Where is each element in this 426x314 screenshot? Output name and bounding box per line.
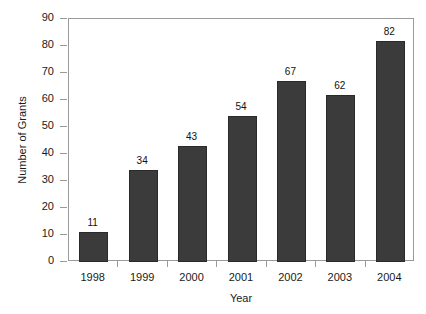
y-axis-tick-label: 30 [42, 172, 54, 187]
bar [79, 232, 108, 262]
bar [326, 95, 355, 262]
bar [129, 170, 158, 262]
y-axis-tick-mark [60, 261, 67, 262]
bar-value-label: 82 [359, 26, 419, 38]
y-axis-tick: 50 [0, 126, 68, 127]
y-axis-tick: 10 [0, 234, 68, 235]
y-axis-tick-mark [60, 207, 67, 208]
y-axis-tick-label: 80 [42, 37, 54, 52]
y-axis-tick: 80 [0, 45, 68, 46]
bar [178, 146, 207, 262]
x-axis-title: Year [68, 291, 414, 305]
x-axis-tick-mark [167, 261, 168, 267]
bar [376, 41, 405, 262]
y-axis-tick-mark [60, 72, 67, 73]
y-axis-tick-label: 0 [48, 253, 54, 268]
y-axis-tick-label: 50 [42, 118, 54, 133]
y-axis-tick: 70 [0, 72, 68, 73]
y-axis-tick: 90 [0, 18, 68, 19]
y-axis-title: Number of Grants [15, 18, 29, 262]
y-axis-tick-mark [60, 153, 67, 154]
bar [277, 81, 306, 262]
bar-value-label: 34 [112, 155, 172, 167]
bar [228, 116, 257, 262]
y-axis-tick: 40 [0, 153, 68, 154]
x-axis-tick-mark [266, 261, 267, 267]
y-axis-tick-mark [60, 180, 67, 181]
bar-value-label: 11 [63, 217, 123, 229]
y-axis-tick: 60 [0, 99, 68, 100]
bar-value-label: 67 [260, 66, 320, 78]
y-axis-tick-label: 70 [42, 64, 54, 79]
y-axis-tick-mark [60, 126, 67, 127]
y-axis-tick-mark [60, 234, 67, 235]
bar-value-label: 43 [162, 131, 222, 143]
y-axis-tick-label: 20 [42, 199, 54, 214]
y-axis-tick-mark [60, 99, 67, 100]
y-axis-tick: 0 [0, 261, 68, 262]
x-axis-tick-label: 2004 [359, 270, 419, 284]
y-axis-tick-label: 90 [42, 10, 54, 25]
x-axis-tick-mark [365, 261, 366, 267]
y-axis-tick-label: 60 [42, 91, 54, 106]
x-axis-tick-mark [117, 261, 118, 267]
y-axis-tick: 20 [0, 207, 68, 208]
y-axis-tick-mark [60, 18, 67, 19]
x-axis-tick-mark [315, 261, 316, 267]
x-axis-tick-mark [216, 261, 217, 267]
bar-value-label: 62 [310, 80, 370, 92]
y-axis-tick: 30 [0, 180, 68, 181]
y-axis-tick-label: 10 [42, 226, 54, 241]
y-axis-tick-label: 40 [42, 145, 54, 160]
y-axis-tick-mark [60, 45, 67, 46]
bar-chart: Number of Grants 0102030405060708090 113… [0, 0, 426, 314]
bar-value-label: 54 [211, 101, 271, 113]
